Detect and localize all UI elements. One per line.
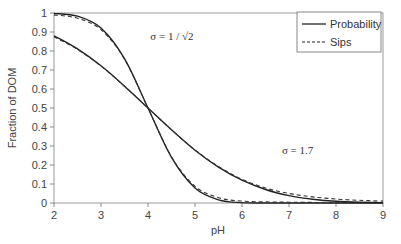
y-tick-label: 0.8 (32, 45, 47, 57)
x-tick-label: 5 (192, 209, 198, 221)
legend: ProbabilitySips (297, 12, 382, 52)
y-axis-label: Fraction of DOM (6, 68, 18, 149)
y-tick-label: 0.6 (32, 83, 47, 95)
x-axis-label: pH (211, 224, 225, 236)
x-tick-label: 9 (380, 209, 386, 221)
x-tick-label: 3 (98, 209, 104, 221)
y-tick-label: 0.2 (32, 159, 47, 171)
x-tick-label: 2 (51, 209, 57, 221)
y-tick-label: 0.7 (32, 64, 47, 76)
annotation-label: σ = 1.7 (282, 144, 314, 156)
chart: 00.10.20.30.40.50.60.70.80.9123456789 σ … (0, 0, 401, 244)
y-tick-label: 1 (41, 7, 47, 19)
y-tick-label: 0.1 (32, 178, 47, 190)
y-tick-label: 0.5 (32, 102, 47, 114)
y-tick-label: 0.9 (32, 26, 47, 38)
x-tick-label: 6 (239, 209, 245, 221)
y-tick-label: 0 (41, 197, 47, 209)
x-tick-label: 8 (333, 209, 339, 221)
y-tick-label: 0.4 (32, 121, 47, 133)
legend-label: Probability (330, 18, 382, 30)
y-tick-label: 0.3 (32, 140, 47, 152)
legend-label: Sips (330, 36, 352, 48)
x-tick-label: 4 (145, 209, 151, 221)
annotation-label: σ = 1 / √2 (150, 30, 193, 42)
x-tick-label: 7 (286, 209, 292, 221)
